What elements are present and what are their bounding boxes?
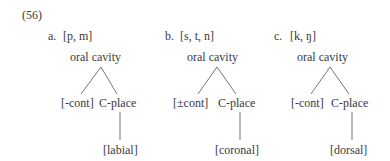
tree-c-branch-left [311, 67, 330, 94]
tree-b-branch-right [217, 67, 236, 94]
tree-a-branch-right [101, 67, 117, 94]
tree-b-branch-left [198, 67, 217, 94]
tree-a-branch-left [81, 67, 101, 94]
tree-c-branch-right [330, 67, 349, 94]
tree-branches [0, 0, 390, 161]
